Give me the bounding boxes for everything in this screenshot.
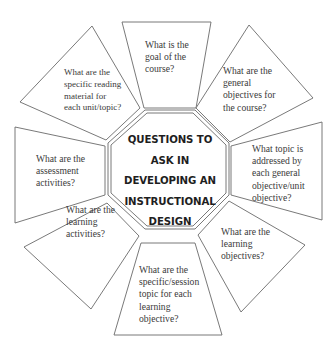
question-assessment-activities: What are the assessment activities? xyxy=(36,153,85,190)
question-topic-addressed: What topic is addressed by each general … xyxy=(252,143,305,204)
question-reading-material: What are the specific reading material f… xyxy=(64,67,121,114)
question-specific-session-topic: What are the specific/session topic for … xyxy=(139,264,199,325)
title-line: INSTRUCTIONAL xyxy=(115,192,225,213)
title-line: ASK IN xyxy=(115,151,225,172)
title-line: DEVELOPING AN xyxy=(115,171,225,192)
title-line: QUESTIONS TO xyxy=(115,130,225,151)
title-line: DESIGN xyxy=(115,212,225,233)
question-goal: What is the goal of the course? xyxy=(145,39,189,76)
question-learning-activities: What are the learning activities? xyxy=(66,204,115,241)
question-learning-objectives: What are the learning objectives? xyxy=(221,226,270,263)
question-general-objectives: What are the general objectives for the … xyxy=(223,65,275,114)
center-title: QUESTIONS TO ASK IN DEVELOPING AN INSTRU… xyxy=(115,130,225,233)
